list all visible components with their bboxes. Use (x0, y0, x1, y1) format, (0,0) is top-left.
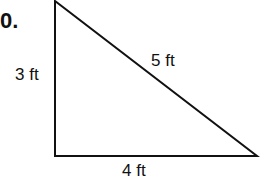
triangle-shape (55, 1, 257, 156)
right-triangle-figure (0, 0, 260, 182)
horizontal-side-label: 4 ft (122, 162, 146, 179)
hypotenuse-label: 5 ft (151, 52, 175, 69)
vertical-side-label: 3 ft (15, 66, 39, 83)
